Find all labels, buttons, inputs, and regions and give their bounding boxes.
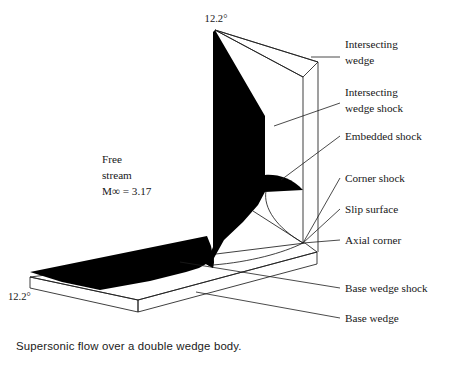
double-wedge-diagram: 12.2° 12.2° Free stream M∞ = 3.17 Inters…	[0, 0, 457, 371]
callout-base-wedge: Base wedge	[345, 312, 399, 324]
leader-intersecting-wedge-shock	[274, 103, 340, 126]
callout-intersecting-wedge-shock-line1: Intersecting	[345, 86, 398, 98]
leader-base-wedge-shock	[180, 262, 340, 288]
callout-embedded-shock: Embedded shock	[345, 130, 422, 142]
callout-intersecting-wedge-line2: wedge	[345, 54, 374, 66]
callout-corner-shock: Corner shock	[345, 172, 405, 184]
corner-shock-curve	[266, 191, 303, 243]
leader-base-wedge	[196, 292, 340, 318]
freestream-line-2: stream	[102, 169, 132, 181]
leader-slip-surface	[303, 209, 340, 243]
callout-slip-surface: Slip surface	[345, 203, 398, 215]
callout-intersecting-wedge-line1: Intersecting	[345, 38, 398, 50]
leader-embedded-shock	[281, 136, 340, 180]
intersecting-wedge-shock-fill	[206, 30, 266, 268]
slip-surface-line	[253, 211, 303, 243]
leader-axial-corner	[303, 240, 340, 243]
top-angle-label: 12.2°	[205, 13, 228, 24]
intersecting-wedge-shock-sheet	[206, 30, 266, 268]
freestream-line-1: Free	[102, 153, 122, 165]
corner-shock-lower-curve	[213, 243, 303, 265]
callout-axial-corner: Axial corner	[345, 234, 401, 246]
freestream-annotation: Free stream M∞ = 3.17	[102, 153, 152, 197]
callout-base-wedge-shock: Base wedge shock	[345, 282, 428, 294]
figure-panel: 12.2° 12.2° Free stream M∞ = 3.17 Inters…	[0, 0, 457, 371]
figure-caption: Supersonic flow over a double wedge body…	[16, 340, 242, 352]
callout-labels: Intersecting wedge Intersecting wedge sh…	[345, 38, 428, 324]
freestream-line-3: M∞ = 3.17	[102, 185, 152, 197]
leader-corner-shock	[303, 178, 340, 243]
callout-intersecting-wedge-shock-line2: wedge shock	[345, 102, 404, 114]
base-angle-label: 12.2°	[8, 291, 31, 302]
